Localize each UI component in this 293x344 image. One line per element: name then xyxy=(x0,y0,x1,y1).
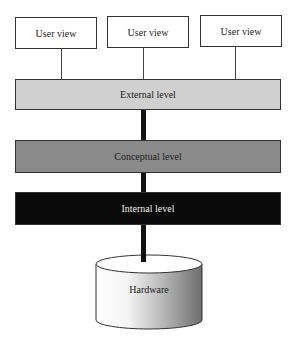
hardware-label: Hardware xyxy=(96,284,202,295)
